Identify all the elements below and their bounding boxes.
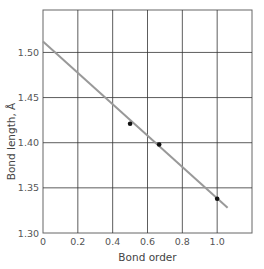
y-tick-label: 1.30 (18, 228, 39, 239)
x-tick-label: 0.6 (140, 236, 155, 247)
y-tick-label: 1.35 (18, 182, 39, 193)
y-tick-label: 1.50 (18, 47, 39, 58)
x-tick-label: 0 (40, 236, 46, 247)
x-tick-label: 0.8 (175, 236, 190, 247)
y-axis-label: Bond length, Å (5, 102, 17, 180)
data-point (128, 121, 133, 126)
fit-line (43, 42, 228, 208)
y-tick-label: 1.45 (18, 92, 39, 103)
x-tick-label: 0.2 (70, 236, 85, 247)
x-tick-label: 0.4 (105, 236, 120, 247)
x-axis-label: Bond order (118, 251, 177, 263)
y-tick-label: 1.40 (18, 137, 39, 148)
x-tick-label: 1.0 (210, 236, 225, 247)
bond-length-chart: 00.20.40.60.81.01.301.351.401.451.50Bond… (0, 0, 264, 269)
data-point (215, 196, 220, 201)
data-point (157, 142, 162, 147)
